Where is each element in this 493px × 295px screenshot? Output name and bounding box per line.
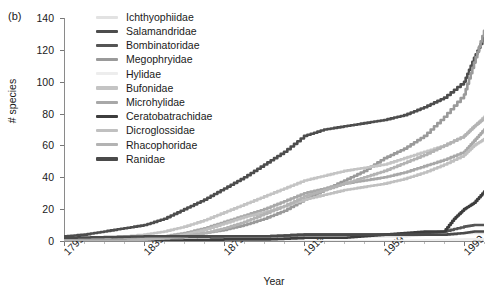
legend-item[interactable]: Hylidae — [96, 67, 212, 81]
x-tick-mark — [384, 242, 385, 246]
x-minor-tick — [324, 242, 325, 244]
legend-item[interactable]: Rhacophoridae — [96, 138, 212, 152]
legend-label: Dicroglossidae — [126, 125, 195, 136]
y-tick-label: 60 — [22, 139, 54, 151]
x-minor-tick — [164, 242, 165, 244]
x-tick-mark — [144, 242, 145, 246]
legend-label: Bufonidae — [126, 83, 173, 94]
y-tick-label: 80 — [22, 108, 54, 120]
x-minor-tick — [264, 242, 265, 244]
x-minor-tick — [124, 242, 125, 244]
y-tick-label: 140 — [22, 12, 54, 24]
legend-label: Bombinatoridae — [126, 40, 200, 51]
x-tick-mark — [224, 242, 225, 246]
y-tick-label: 20 — [22, 203, 54, 215]
legend-color-swatch — [96, 58, 118, 61]
legend-color-swatch — [96, 101, 118, 104]
legend-label: Hylidae — [126, 69, 161, 80]
legend-label: Salamandridae — [126, 26, 197, 37]
x-minor-tick — [404, 242, 405, 244]
x-minor-tick — [344, 242, 345, 244]
legend-label: Megophryidae — [126, 54, 193, 65]
x-minor-tick — [184, 242, 185, 244]
y-tick-label: 0 — [22, 235, 54, 247]
legend-color-swatch — [96, 143, 118, 146]
x-tick-mark — [464, 242, 465, 246]
x-tick-mark — [64, 242, 65, 246]
x-minor-tick — [204, 242, 205, 244]
legend-item[interactable]: Dicroglossidae — [96, 124, 212, 138]
legend-item[interactable]: Bombinatoridae — [96, 38, 212, 52]
figure-panel-b: (b) # species Year 020406080100120140 17… — [0, 0, 493, 295]
legend-color-swatch — [96, 115, 118, 118]
legend-color-swatch — [96, 44, 118, 47]
x-minor-tick — [444, 242, 445, 244]
legend-item[interactable]: Salamandridae — [96, 24, 212, 38]
x-minor-tick — [364, 242, 365, 244]
legend-color-swatch — [96, 129, 118, 132]
legend-color-swatch — [96, 30, 118, 33]
x-minor-tick — [424, 242, 425, 244]
legend-label: Ichthyophiidae — [126, 12, 194, 23]
x-axis-label: Year — [64, 275, 484, 287]
panel-label: (b) — [8, 10, 21, 22]
y-tick-mark — [60, 241, 64, 242]
x-minor-tick — [484, 242, 485, 244]
x-minor-tick — [104, 242, 105, 244]
legend-item[interactable]: Ranidae — [96, 152, 212, 166]
y-tick-label: 40 — [22, 171, 54, 183]
x-minor-tick — [284, 242, 285, 244]
legend-item[interactable]: Ceratobatrachidae — [96, 109, 212, 123]
legend: IchthyophiidaeSalamandridaeBombinatorida… — [96, 10, 212, 166]
x-minor-tick — [84, 242, 85, 244]
legend-item[interactable]: Bufonidae — [96, 81, 212, 95]
legend-color-swatch — [96, 72, 118, 75]
y-tick-label: 100 — [22, 76, 54, 88]
legend-color-swatch — [96, 86, 118, 89]
legend-label: Rhacophoridae — [126, 140, 197, 151]
legend-item[interactable]: Ichthyophiidae — [96, 10, 212, 24]
x-axis-line — [64, 241, 484, 242]
legend-color-swatch — [96, 157, 118, 160]
legend-item[interactable]: Megophryidae — [96, 53, 212, 67]
legend-label: Microhylidae — [126, 97, 185, 108]
legend-label: Ceratobatrachidae — [126, 111, 212, 122]
x-minor-tick — [244, 242, 245, 244]
x-tick-mark — [304, 242, 305, 246]
legend-label: Ranidae — [126, 154, 165, 165]
legend-color-swatch — [96, 16, 118, 19]
y-axis-label: # species — [6, 66, 18, 136]
legend-item[interactable]: Microhylidae — [96, 95, 212, 109]
y-tick-label: 120 — [22, 44, 54, 56]
